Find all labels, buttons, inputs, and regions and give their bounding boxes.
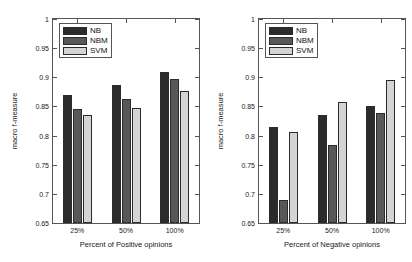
bar-nb-50pct	[112, 85, 121, 223]
y-axis-tick-label: 0.75	[241, 161, 255, 168]
y-axis-tick	[259, 19, 263, 20]
legend-item-svm: SVM	[269, 46, 314, 55]
y-axis-tick	[401, 48, 405, 49]
y-axis-tick	[195, 48, 199, 49]
legend-item-nb: NB	[63, 26, 108, 35]
legend-label-svm: SVM	[90, 47, 107, 55]
y-axis-tick	[401, 106, 405, 107]
y-axis-tick	[259, 136, 263, 137]
legend-item-nbm: NBM	[63, 36, 108, 45]
legend-right: NB NBM SVM	[265, 23, 318, 58]
y-axis-tick	[53, 136, 57, 137]
legend-label-nbm: NBM	[296, 37, 314, 45]
y-axis-tick-label: 0.75	[35, 161, 49, 168]
x-axis-tick-label: 100%	[166, 227, 184, 234]
legend-swatch-svm	[269, 47, 293, 55]
legend-swatch-nb	[63, 27, 87, 35]
y-axis-tick	[195, 106, 199, 107]
x-axis-tick	[332, 219, 333, 223]
plot-area-right: NB NBM SVM 0.650.70.750.80.850.90.95125%…	[258, 18, 406, 224]
y-axis-tick	[53, 165, 57, 166]
y-axis-tick	[401, 77, 405, 78]
y-axis-tick-label: 0.9	[39, 74, 49, 81]
x-axis-tick-label: 50%	[325, 227, 339, 234]
bar-nb-25pct	[269, 127, 278, 223]
y-axis-tick-label: 0.9	[245, 74, 255, 81]
y-axis-tick	[195, 165, 199, 166]
y-axis-tick-label: 0.8	[245, 132, 255, 139]
bar-svm-50pct	[338, 102, 347, 223]
x-axis-tick	[283, 219, 284, 223]
bar-svm-100pct	[386, 80, 395, 223]
y-axis-tick	[401, 194, 405, 195]
y-axis-tick	[259, 223, 263, 224]
y-axis-tick-label: 0.7	[39, 190, 49, 197]
x-axis-tick	[381, 219, 382, 223]
plot-area-left: NB NBM SVM 0.650.70.750.80.850.90.95125%…	[52, 18, 200, 224]
y-axis-tick-label: 0.8	[39, 132, 49, 139]
y-axis-tick	[53, 106, 57, 107]
x-axis-tick	[381, 19, 382, 23]
y-axis-tick	[401, 165, 405, 166]
y-axis-tick	[53, 223, 57, 224]
legend-swatch-nbm	[63, 37, 87, 45]
y-axis-tick	[259, 194, 263, 195]
bar-nb-100pct	[366, 106, 375, 223]
chart-panel-negative: macro f-measure NB NBM SVM 0.650.70.750.…	[206, 0, 412, 262]
x-axis-tick-label: 25%	[70, 227, 84, 234]
y-axis-title-right: macro f-measure	[216, 93, 225, 150]
legend-swatch-nbm	[269, 37, 293, 45]
bar-nbm-25pct	[73, 109, 82, 223]
legend-label-nbm: NBM	[90, 37, 108, 45]
y-axis-tick-label: 0.65	[35, 220, 49, 227]
bar-nbm-100pct	[170, 79, 179, 223]
legend-label-nb: NB	[296, 27, 307, 35]
y-axis-tick-label: 0.65	[241, 220, 255, 227]
y-axis-tick-label: 0.95	[241, 45, 255, 52]
y-axis-tick	[53, 77, 57, 78]
y-axis-tick	[195, 77, 199, 78]
x-axis-tick-label: 25%	[276, 227, 290, 234]
y-axis-tick-label: 0.95	[35, 45, 49, 52]
x-axis-title-left: Percent of Positive opinions	[52, 240, 200, 249]
y-axis-tick-label: 1	[251, 16, 255, 23]
y-axis-tick	[195, 19, 199, 20]
x-axis-tick	[126, 19, 127, 23]
bar-nb-100pct	[160, 72, 169, 223]
y-axis-tick-label: 1	[45, 16, 49, 23]
x-axis-tick	[175, 19, 176, 23]
y-axis-tick	[401, 136, 405, 137]
y-axis-tick	[195, 136, 199, 137]
figure: macro f-measure NB NBM SVM 0.650.70.750.…	[0, 0, 412, 262]
x-axis-tick-label: 50%	[119, 227, 133, 234]
legend-item-svm: SVM	[63, 46, 108, 55]
x-axis-tick	[332, 19, 333, 23]
y-axis-tick	[259, 106, 263, 107]
bar-svm-25pct	[83, 115, 92, 223]
y-axis-tick	[53, 19, 57, 20]
bar-nb-25pct	[63, 95, 72, 223]
legend-left: NB NBM SVM	[59, 23, 112, 58]
bar-svm-25pct	[289, 132, 298, 224]
legend-swatch-svm	[63, 47, 87, 55]
y-axis-tick-label: 0.85	[241, 103, 255, 110]
x-axis-tick	[126, 219, 127, 223]
chart-panel-positive: macro f-measure NB NBM SVM 0.650.70.750.…	[0, 0, 206, 262]
bar-nb-50pct	[318, 115, 327, 223]
legend-item-nb: NB	[269, 26, 314, 35]
bar-svm-100pct	[180, 91, 189, 223]
legend-label-nb: NB	[90, 27, 101, 35]
legend-swatch-nb	[269, 27, 293, 35]
y-axis-tick	[259, 48, 263, 49]
y-axis-tick-label: 0.85	[35, 103, 49, 110]
x-axis-tick-label: 100%	[372, 227, 390, 234]
bar-nbm-50pct	[122, 99, 131, 223]
y-axis-tick	[259, 77, 263, 78]
y-axis-tick	[53, 48, 57, 49]
legend-item-nbm: NBM	[269, 36, 314, 45]
y-axis-tick	[195, 194, 199, 195]
y-axis-tick	[259, 165, 263, 166]
x-axis-tick	[77, 219, 78, 223]
y-axis-tick	[401, 223, 405, 224]
y-axis-title-left: macro f-measure	[10, 93, 19, 150]
